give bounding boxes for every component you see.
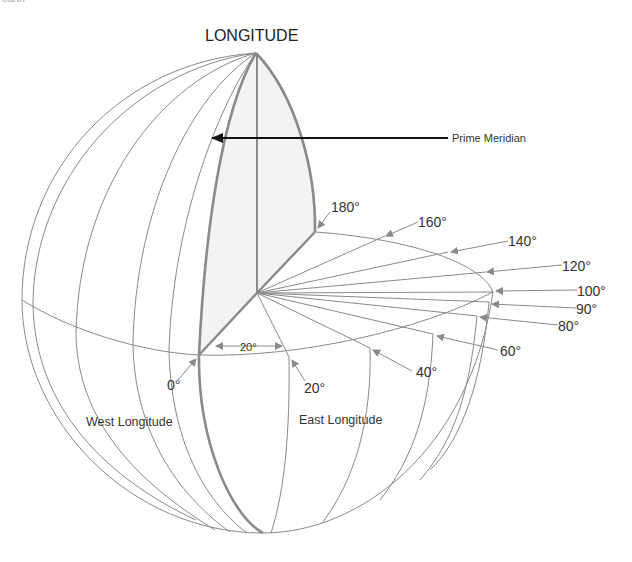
- west-longitude-label: West Longitude: [86, 415, 173, 429]
- degree-label-80: 80°: [558, 318, 579, 334]
- east-longitude-label: East Longitude: [299, 413, 382, 427]
- degree-label-180: 180°: [331, 199, 360, 215]
- longitude-diagram: LONGITUDE Prime Meridian 20° 0° 20° 40° …: [0, 0, 632, 562]
- degree-label-20: 20°: [304, 380, 325, 396]
- equator-back: [315, 232, 493, 292]
- angle-20-label: 20°: [240, 341, 257, 353]
- degree-label-40: 40°: [416, 364, 437, 380]
- degree-label-60: 60°: [500, 343, 521, 359]
- degree-label-0: 0°: [167, 377, 180, 393]
- degree-label-120: 120°: [562, 258, 591, 274]
- degree-label-160: 160°: [418, 214, 447, 230]
- diagram-title: LONGITUDE: [205, 27, 298, 44]
- degree-label-90: 90°: [576, 301, 597, 317]
- degree-label-140: 140°: [508, 233, 537, 249]
- degree-label-100: 100°: [577, 283, 606, 299]
- prime-meridian-label: Prime Meridian: [452, 132, 526, 144]
